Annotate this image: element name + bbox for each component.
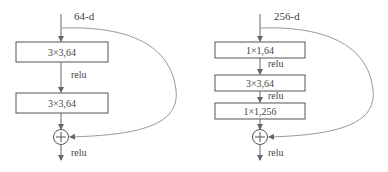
- right-residual-block: 256-d 1×1,64 relu 3×3,64 relu 1×1,256 re…: [215, 10, 373, 160]
- right-layer-3-label: 1×1,256: [243, 106, 276, 117]
- right-relu-2: relu: [268, 90, 284, 101]
- right-layer-1-label: 1×1,64: [246, 45, 274, 56]
- right-input-label: 256-d: [274, 10, 300, 22]
- left-relu-out: relu: [71, 147, 87, 158]
- left-layer-2-label: 3×3,64: [48, 98, 76, 109]
- right-relu-1: relu: [268, 58, 284, 69]
- right-relu-out: relu: [268, 147, 284, 158]
- left-input-label: 64-d: [74, 10, 95, 22]
- left-residual-block: 64-d 3×3,64 relu 3×3,64 relu: [16, 10, 176, 160]
- left-relu-1: relu: [71, 69, 87, 80]
- right-layer-2-label: 3×3,64: [246, 78, 274, 89]
- left-layer-1-label: 3×3,64: [48, 47, 76, 58]
